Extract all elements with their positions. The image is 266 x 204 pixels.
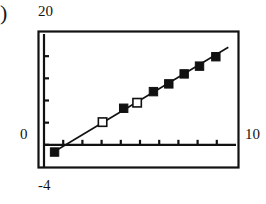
data-point-filled <box>50 148 58 156</box>
data-point-filled <box>195 62 203 70</box>
data-point-filled <box>119 104 127 112</box>
data-point-open <box>133 99 141 107</box>
data-point-filled <box>180 70 188 78</box>
data-point-filled <box>165 80 173 88</box>
plot-canvas <box>0 0 266 204</box>
figure-panel: ) 20 0 10 -4 <box>0 0 266 204</box>
data-point-filled <box>212 53 220 61</box>
data-point-open <box>98 118 106 126</box>
data-point-filled <box>149 87 157 95</box>
